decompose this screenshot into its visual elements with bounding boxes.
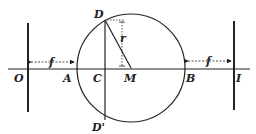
label-f-right: f	[205, 55, 213, 68]
label-d: D	[93, 8, 104, 21]
label-f-left: f	[48, 56, 56, 69]
label-b: B	[185, 72, 195, 85]
label-d-prime: D'	[91, 121, 105, 134]
optics-diagram: O A C M B I D D' f f r	[0, 0, 256, 134]
label-i: I	[235, 72, 242, 85]
label-a: A	[62, 72, 72, 85]
label-m: M	[123, 72, 137, 85]
radius-dm	[105, 20, 131, 68]
label-r: r	[120, 32, 127, 45]
label-o: O	[14, 72, 24, 85]
label-c: C	[93, 72, 102, 85]
